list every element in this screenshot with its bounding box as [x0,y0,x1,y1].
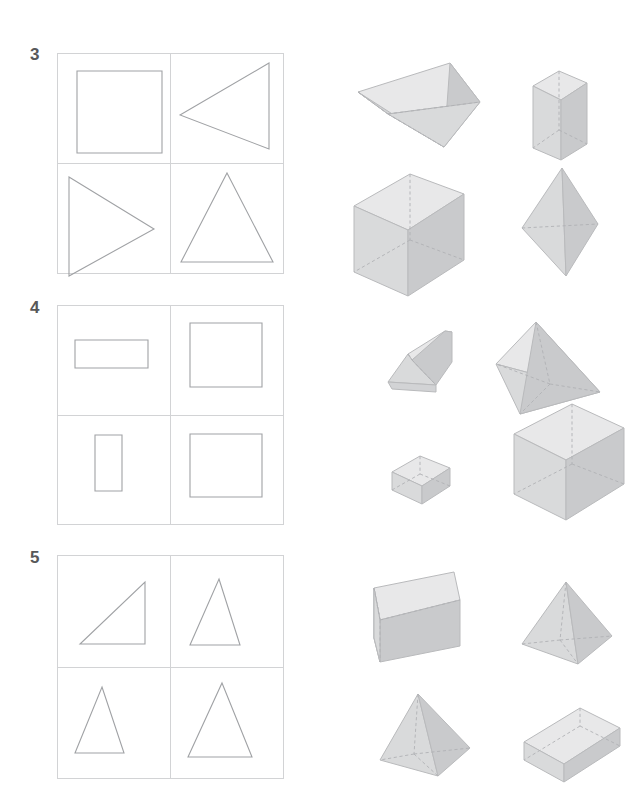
cell-bottom-left[interactable] [95,435,122,491]
worksheet-page: 3 [0,0,642,809]
shape-square-large-2 [190,434,262,497]
cell-bottom-right[interactable] [188,683,252,757]
cell-top-left[interactable] [75,340,148,368]
flat-shape-grid-4 [57,305,284,525]
shape-triangle-isosceles-1 [190,579,240,645]
solid-rectangular-prism-upright[interactable] [514,404,624,520]
row-number-5: 5 [30,549,39,566]
solid-wedge-prism[interactable] [388,331,452,392]
shape-square-large [190,323,262,387]
solids-panel-4 [340,300,632,550]
shape-right-triangle [80,582,145,644]
solid-square-pyramid-tall[interactable] [522,582,612,664]
cell-top-left[interactable] [80,582,145,644]
solid-flat-box-small[interactable] [392,456,450,504]
solid-triangular-prism-wide[interactable] [374,572,460,662]
shape-rectangle-tall [95,435,122,491]
flat-shape-grid-5 [57,555,284,779]
shape-triangle-isosceles-3 [188,683,252,757]
row-number-4: 4 [30,299,39,316]
cell-top-right[interactable] [190,323,262,387]
shape-rectangle-wide [75,340,148,368]
shape-triangle-isosceles-2 [75,687,124,753]
cell-top-right[interactable] [190,579,240,645]
cell-bottom-left[interactable] [75,687,124,753]
solid-flat-box-wide[interactable] [524,708,620,782]
solids-panel-5 [340,550,632,800]
solid-square-pyramid-short[interactable] [380,694,470,776]
cell-bottom-right[interactable] [190,434,262,497]
exercise-row-5: 5 [0,0,642,260]
solid-tetrahedron-wide[interactable] [496,322,600,414]
